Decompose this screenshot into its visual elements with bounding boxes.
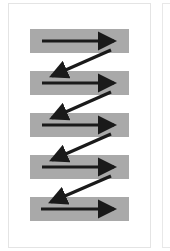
arrows-layer — [0, 0, 170, 251]
arrow-down-left-icon — [51, 176, 111, 202]
arrow-down-left-icon — [52, 50, 111, 76]
arrow-down-left-icon — [52, 134, 111, 160]
arrow-down-left-icon — [52, 92, 111, 118]
